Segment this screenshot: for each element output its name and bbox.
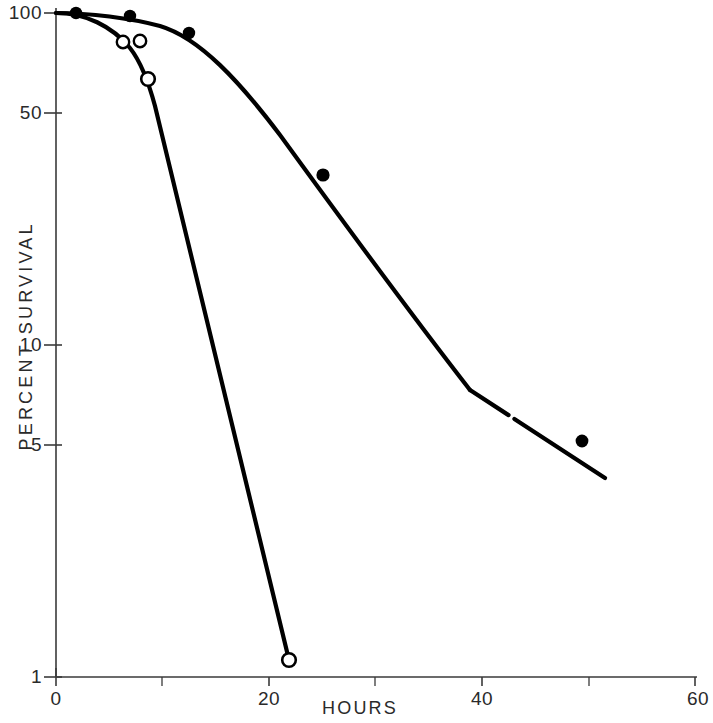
x-tick-label-20: 20: [244, 688, 294, 710]
series-filled-circles-line-segment2: [470, 382, 516, 390]
y-tick-label-1: 1: [0, 666, 42, 688]
data-point-filled: [183, 27, 195, 39]
data-point-filled: [576, 435, 589, 448]
data-point-filled: [124, 10, 136, 22]
series-filled-circles-line-b: [470, 390, 519, 452]
x-tick-label-0: 0: [31, 688, 81, 710]
series-filled-circles-line-mid: [470, 390, 515, 447]
series-filled-circles-line-part-a: [466, 384, 517, 385]
x-tick-label-60: 60: [673, 688, 713, 710]
x-tick-label-40: 40: [457, 688, 507, 710]
y-tick-label-50: 50: [0, 102, 42, 124]
data-point-open: [141, 72, 155, 86]
series-open-circles-line: [56, 13, 289, 660]
y-axis-title: PERCENT SURVIVAL: [16, 231, 37, 451]
series-filled-circles-line: [56, 13, 470, 390]
data-point-filled: [70, 7, 82, 19]
series-filled-circles-line-lower: [470, 381, 514, 390]
y-tick-label-100: 100: [0, 2, 42, 24]
series-filled-circles-line-main-tail: [470, 390, 605, 478]
data-point-open: [134, 35, 146, 47]
x-axis-title: HOURS: [300, 698, 420, 719]
data-point-open: [282, 653, 296, 667]
data-point-filled: [316, 168, 329, 181]
data-point-open: [117, 36, 129, 48]
